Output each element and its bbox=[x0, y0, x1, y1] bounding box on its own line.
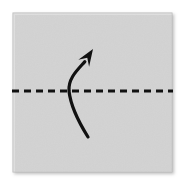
origami-diagram: Origami valley/mountain fold step bbox=[0, 0, 185, 186]
origami-diagram-canvas bbox=[0, 0, 185, 186]
